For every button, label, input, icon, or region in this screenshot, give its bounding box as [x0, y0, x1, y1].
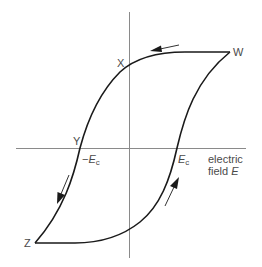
point-label-x: X — [117, 57, 124, 69]
point-label-z: Z — [24, 237, 31, 249]
x-axis-label-line2: field E — [208, 165, 239, 177]
point-label-y: Y — [73, 135, 80, 147]
coercive-subscript: c — [185, 158, 189, 167]
arrow-top-leftward-icon — [150, 45, 179, 52]
pos-coercive-field-label: Ec — [178, 153, 189, 167]
upper-branch-curve — [35, 52, 230, 243]
lower-branch-curve — [35, 52, 230, 243]
coercive-symbol: E — [88, 153, 95, 165]
x-axis-label-line1: electric — [208, 153, 243, 165]
hysteresis-diagram — [0, 0, 262, 267]
x-axis-word: field — [208, 165, 228, 177]
point-label-w: W — [233, 46, 243, 58]
x-axis-symbol: E — [231, 165, 238, 177]
neg-coercive-field-label: −Ec — [82, 153, 100, 167]
coercive-subscript: c — [96, 158, 100, 167]
